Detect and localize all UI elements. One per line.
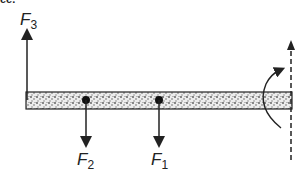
label-f2: F2 bbox=[77, 151, 94, 171]
diagram-canvas bbox=[0, 0, 303, 175]
force-diagram: ee. bbox=[0, 0, 303, 175]
label-f1: F1 bbox=[151, 151, 168, 171]
label-f3: F3 bbox=[20, 11, 37, 31]
